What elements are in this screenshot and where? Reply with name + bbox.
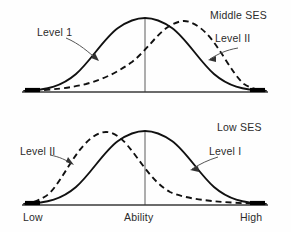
axis-tick-ability: Ability [124,212,153,223]
axis-tick-high: High [240,212,262,223]
group-label-low-ses: Low SES [217,122,262,133]
leader-arrowhead-level2-top [208,56,216,62]
group-label-middle-ses: Middle SES [210,10,267,21]
distribution-figure: Middle SES Level 1 Level II Low SES Leve… [0,0,291,232]
series-label-top-right: Level II [215,33,250,44]
series-label-bottom-right: Level I [209,146,241,157]
panel-low-ses [22,131,268,205]
series-label-top-left: Level 1 [37,27,72,38]
leader-arrowhead-level1-top [91,53,99,61]
axis-tick-low: Low [23,212,43,223]
series-label-bottom-left: Level II [20,146,55,157]
